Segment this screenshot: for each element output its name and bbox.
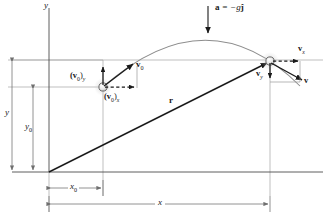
- v-symbol: v: [304, 75, 308, 85]
- vx-component: x: [302, 49, 305, 55]
- y-axis-label: y: [44, 1, 48, 10]
- vx-label: vx: [298, 44, 305, 55]
- vy-label: vy: [256, 69, 263, 80]
- dim-x0-subscript: 0: [74, 187, 77, 193]
- v-label: v: [304, 76, 308, 85]
- dim-label-x: x: [155, 198, 165, 207]
- construction-lines: [8, 60, 323, 212]
- v0y-label: (v0)y: [70, 71, 85, 82]
- v0-subscript: 0: [141, 65, 144, 71]
- acceleration-label: a = −gĵ: [215, 3, 244, 12]
- dim-label-y0: y0: [25, 122, 32, 133]
- r-vector-label: r: [169, 96, 173, 105]
- dim-label-x0: x0: [68, 182, 79, 193]
- v0x-component: x: [117, 97, 120, 103]
- dim-label-y: y: [5, 108, 9, 117]
- v0-vector: [104, 64, 133, 86]
- figure-canvas: y a = −gĵ v0 (v0)y (v0)x r vx vy v y y0 …: [0, 0, 323, 213]
- v0x-label: (v0)x: [104, 92, 119, 103]
- axes: [12, 8, 323, 172]
- v0y-component: y: [83, 76, 86, 82]
- vy-component: y: [260, 74, 263, 80]
- projectile-motion-svg: [0, 0, 323, 213]
- dim-y0-subscript: 0: [29, 127, 32, 133]
- dimension-lines: [12, 62, 270, 212]
- acceleration-unit-vector: ĵ: [241, 2, 244, 12]
- v0-label: v0: [136, 60, 144, 71]
- v-vector: [271, 63, 302, 80]
- acceleration-equation: = −g: [220, 2, 241, 12]
